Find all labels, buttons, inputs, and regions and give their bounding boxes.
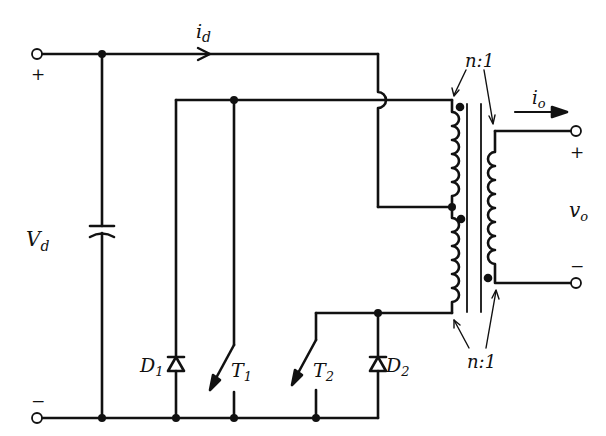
input-voltage-label: Vd [26, 227, 49, 254]
switch-t1-arrow-icon [210, 375, 220, 390]
output-plus-terminal [571, 126, 581, 136]
turns-ratio-pointers-bottom [454, 290, 499, 348]
diode-d2 [370, 313, 386, 418]
switch-t1-label: T1 [231, 359, 252, 384]
switch-t2-label: T2 [313, 359, 334, 384]
turns-ratio-bottom-label: n:1 [467, 351, 496, 372]
output-plus-label: + [570, 142, 584, 162]
output-current-label: io [532, 87, 546, 111]
output-minus-label: − [570, 256, 584, 276]
transformer-core [467, 104, 481, 312]
input-current-label: id [196, 20, 211, 45]
input-plus-label: + [31, 64, 45, 84]
turns-ratio-top-label: n:1 [465, 50, 494, 71]
input-plus-terminal [32, 49, 42, 59]
diode-d2-label: D2 [385, 354, 410, 379]
push-pull-converter-schematic: + − + − id Vd io vo n:1 n:1 D1 T1 T2 D2 [0, 0, 606, 436]
output-minus-terminal [571, 278, 581, 288]
output-current-arrow-icon [552, 107, 567, 117]
polarity-dots [456, 103, 493, 283]
input-minus-label: − [31, 391, 45, 411]
input-minus-terminal [32, 413, 42, 423]
diode-d1-label: D1 [139, 354, 164, 379]
top-input-rail [42, 54, 386, 207]
switch-t2-arrow-icon [292, 370, 302, 385]
output-voltage-label: vo [569, 198, 588, 224]
transformer-secondary-winding [488, 131, 576, 283]
diode-d1 [168, 100, 184, 418]
capacitor-vd [90, 54, 114, 418]
